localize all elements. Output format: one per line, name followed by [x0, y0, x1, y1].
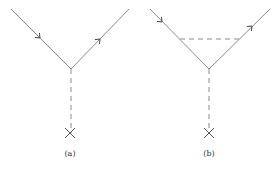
- arrow-icon: [157, 17, 162, 22]
- diagram-svg: [0, 0, 278, 172]
- incoming-fermion-line-a: [11, 9, 71, 69]
- diagram-a-label: (a): [64, 149, 75, 158]
- feynman-diagrams-figure: (a) (b): [0, 0, 278, 172]
- cross-source-icon: [204, 128, 214, 138]
- diagram-b-label: (b): [203, 149, 214, 158]
- cross-source-icon: [65, 128, 75, 138]
